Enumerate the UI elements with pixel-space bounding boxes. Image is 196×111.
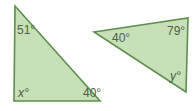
left-triangle-bottom-left-angle: x° [17, 86, 29, 100]
left-triangle-bottom-right-angle: 40° [83, 86, 101, 100]
right-triangle: 40° 79° y° [94, 18, 188, 92]
right-triangle-top-right-angle: 79° [167, 24, 185, 38]
right-triangle-left-angle: 40° [112, 31, 130, 45]
left-triangle-top-angle: 51° [17, 23, 35, 37]
left-triangle: 51° x° 40° [14, 6, 101, 101]
right-triangle-bottom-right-angle: y° [169, 69, 181, 83]
triangles-figure: 51° x° 40° 40° 79° y° [0, 0, 196, 111]
